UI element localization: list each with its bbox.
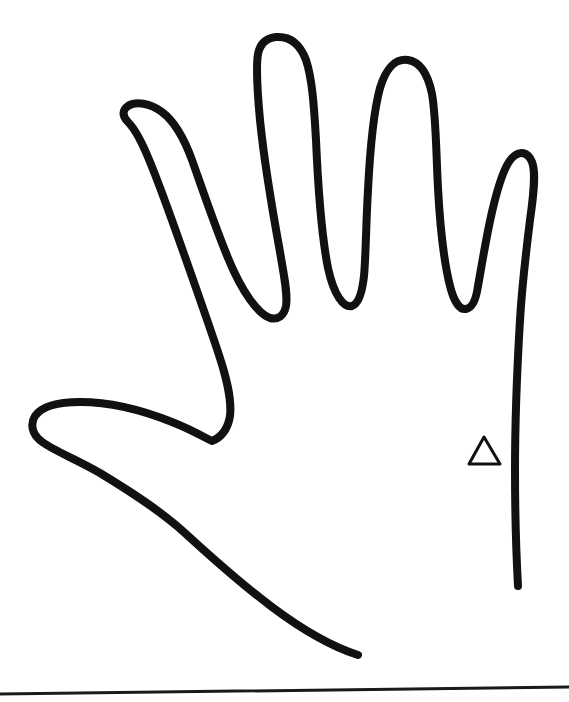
scanned-page: Hand outline tracing traced human hand, … <box>0 0 569 702</box>
hand-drawing-canvas <box>0 0 569 702</box>
paper-background <box>0 0 569 702</box>
